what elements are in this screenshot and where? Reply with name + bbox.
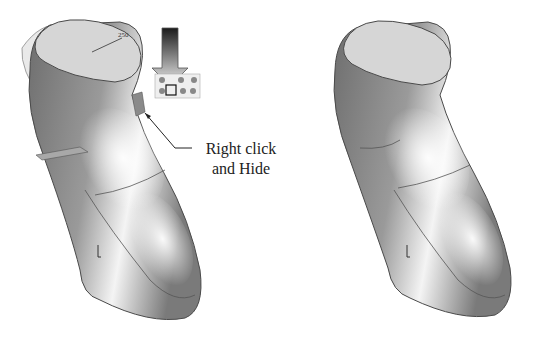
model-right-drawing xyxy=(290,0,534,337)
context-toolbar[interactable] xyxy=(155,74,200,98)
callout-line-1: Right click xyxy=(196,139,286,159)
grip-model-after xyxy=(290,0,534,337)
callout-line-2: and Hide xyxy=(196,159,286,179)
grip-model-before: 250 Right click and Hide xyxy=(0,0,270,337)
dimension-label: 250 xyxy=(118,31,129,39)
callout-text: Right click and Hide xyxy=(196,139,286,179)
